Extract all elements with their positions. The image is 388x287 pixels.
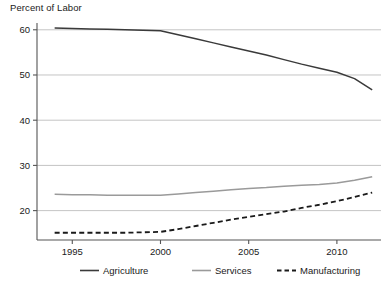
line-chart-plot: 2030405060 1995200020052010 AgricultureS… (0, 0, 388, 287)
x-tick-label: 1995 (62, 246, 83, 257)
series-line-services (55, 177, 373, 196)
y-tick-label: 20 (19, 205, 30, 216)
series-line-agriculture (55, 28, 373, 90)
y-tick-label: 60 (19, 24, 30, 35)
legend-label-agriculture: Agriculture (103, 265, 148, 276)
x-tick-label: 2000 (150, 246, 171, 257)
data-series-group (55, 28, 373, 233)
y-axis: 2030405060 (19, 23, 37, 240)
legend-label-manufacturing: Manufacturing (300, 265, 360, 276)
chart-legend: AgricultureServicesManufacturing (80, 265, 360, 276)
legend-label-services: Services (215, 265, 252, 276)
series-line-manufacturing (55, 193, 373, 233)
chart-container: Percent of Labor 2030405060 199520002005… (0, 0, 388, 287)
x-axis: 1995200020052010 (37, 240, 381, 257)
x-tick-label: 2005 (238, 246, 259, 257)
y-tick-label: 40 (19, 115, 30, 126)
y-tick-label: 50 (19, 69, 30, 80)
y-tick-label: 30 (19, 160, 30, 171)
x-tick-label: 2010 (326, 246, 347, 257)
